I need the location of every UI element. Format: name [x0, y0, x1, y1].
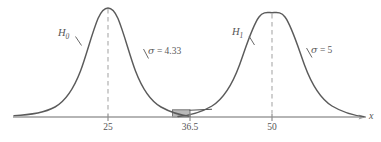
h0-label-leader	[76, 37, 82, 46]
h1-label-subscript: 1	[240, 31, 244, 40]
tick-label-25: 25	[103, 123, 113, 133]
h0-curve-label: H0	[58, 28, 69, 41]
shaded-region-pointer-line	[190, 109, 213, 110]
h1-sigma-label: σ = 5	[311, 45, 332, 56]
h1-curve-label: H1	[232, 27, 243, 40]
distribution-figure: H0 σ = 4.33 H1 σ = 5 25 36.5 50 x	[0, 0, 381, 142]
h1-label-leader	[249, 36, 255, 45]
h0-curve	[14, 8, 190, 116]
h1-curve	[178, 12, 364, 116]
figure-canvas	[0, 0, 381, 142]
h0-label-main: H	[58, 27, 66, 38]
h1-label-main: H	[232, 26, 240, 37]
h0-label-subscript: 0	[66, 32, 70, 41]
h0-sigma-label: σ = 4.33	[148, 46, 181, 57]
tick-label-36-5: 36.5	[182, 123, 199, 133]
sigma-value-h0: = 4.33	[155, 46, 182, 56]
x-axis-label: x	[369, 111, 373, 121]
sigma-value-h1: = 5	[318, 45, 333, 55]
tick-label-50: 50	[267, 123, 277, 133]
